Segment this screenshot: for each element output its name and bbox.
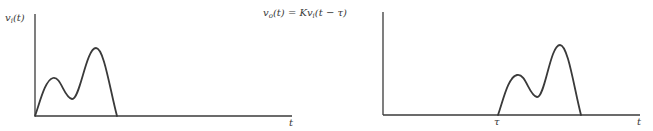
delay-tau-label: τ (494, 116, 500, 127)
right-y-label: vo(t) = Kvi(t − τ) (263, 7, 347, 20)
left-plot: vi(t) t (5, 12, 294, 128)
input-signal-curve (35, 48, 117, 116)
right-x-label: t (637, 116, 642, 127)
delayed-output-signal-curve (498, 45, 581, 115)
right-plot: vo(t) = Kvi(t − τ) τ t (263, 7, 642, 127)
left-x-label: t (289, 117, 294, 128)
diagram-canvas: vi(t) t vo(t) = Kvi(t − τ) τ t (0, 0, 653, 131)
left-y-label: vi(t) (5, 12, 25, 25)
